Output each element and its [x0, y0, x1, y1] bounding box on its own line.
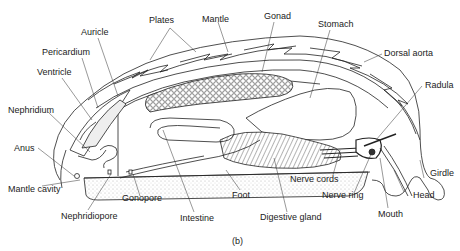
label-intestine: Intestine	[180, 213, 214, 223]
label-auricle: Auricle	[81, 27, 109, 37]
label-nerve-ring: Nerve ring	[322, 190, 364, 200]
label-mantle: Mantle	[202, 14, 229, 24]
label-radula: Radula	[425, 80, 454, 90]
label-anus: Anus	[14, 143, 35, 153]
label-mouth: Mouth	[378, 209, 403, 219]
label-head: Head	[413, 190, 435, 200]
label-mantle-cavity: Mantle cavity	[8, 184, 61, 194]
figure-caption: (b)	[232, 236, 243, 246]
label-gonad: Gonad	[264, 11, 291, 21]
label-nephridium: Nephridium	[8, 105, 54, 115]
label-dorsal-aorta: Dorsal aorta	[384, 48, 433, 58]
label-plates: Plates	[149, 15, 174, 25]
label-ventricle: Ventricle	[37, 67, 72, 77]
label-gonopore: Gonopore	[122, 193, 162, 203]
label-pericardium: Pericardium	[42, 47, 90, 57]
label-digestive-gland: Digestive gland	[260, 212, 322, 222]
label-stomach: Stomach	[318, 19, 354, 29]
label-girdle: Girdle	[430, 168, 454, 178]
label-nephridiopore: Nephridiopore	[61, 211, 118, 221]
label-foot: Foot	[232, 190, 250, 200]
label-nerve-cords: Nerve cords	[290, 174, 339, 184]
